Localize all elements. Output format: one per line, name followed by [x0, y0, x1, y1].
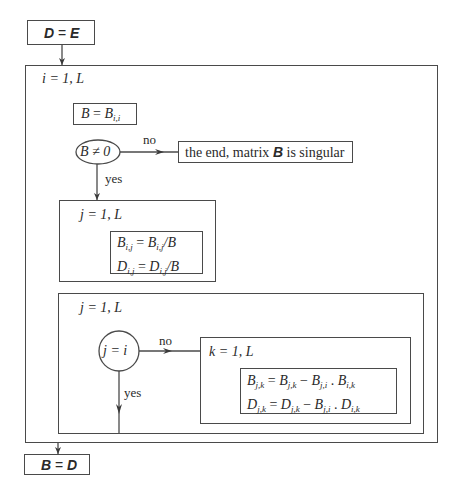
decision-1-no-label: no: [143, 133, 156, 146]
decision-2-no-label: no: [159, 334, 172, 347]
outer-loop-label: i = 1, L: [42, 72, 84, 86]
decision-2-yes-label: yes: [124, 386, 141, 399]
k-loop-label: k = 1, L: [209, 345, 253, 359]
formula-d-row: Di,j = Di,j/B: [117, 257, 202, 281]
eliminate-loop-label: j = 1, L: [80, 301, 122, 315]
end-box: B = D: [24, 454, 90, 475]
end-box-label: B = D: [41, 458, 77, 472]
normalize-loop-label: j = 1, L: [80, 208, 122, 222]
formula-b-row: Bi,j = Bi,j/B: [117, 233, 202, 257]
decision-2-condition: j = i: [103, 344, 127, 358]
normalize-formula-box: Bi,j = Bi,j/B Di,j = Di,j/B: [110, 231, 203, 274]
decision-1-yes-label: yes: [105, 172, 122, 185]
formula-djk-row: Dj,k = Dj,k − Bj,i . Di,k: [247, 395, 396, 419]
decision-1-condition: B ≠ 0: [80, 145, 110, 159]
eliminate-formula-box: Bj,k = Bj,k − Bj,i . Bi,k Dj,k = Dj,k − …: [240, 368, 397, 414]
formula-bjk-row: Bj,k = Bj,k − Bj,i . Bi,k: [247, 371, 396, 395]
pivot-assign-box: B = Bi,i: [73, 103, 137, 125]
singular-message-box: the end, matrix B is singular: [178, 141, 353, 163]
pivot-assign-label: B = Bi,i: [81, 107, 120, 123]
singular-message-text: the end, matrix B is singular: [185, 145, 344, 160]
start-box-label: D = E: [44, 26, 79, 40]
start-box: D = E: [27, 20, 95, 45]
